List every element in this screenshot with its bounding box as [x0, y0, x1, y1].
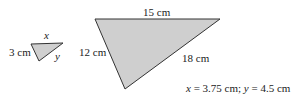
- small-left-label: 3 cm: [9, 47, 31, 58]
- large-top-label: 15 cm: [143, 7, 170, 18]
- large-left-label: 12 cm: [79, 47, 106, 58]
- answer-text: x = 3.75 cm; y = 4.5 cm: [186, 83, 290, 94]
- large-right-label: 18 cm: [182, 53, 209, 64]
- small-top-label: x: [44, 30, 49, 41]
- small-right-label: y: [55, 51, 60, 62]
